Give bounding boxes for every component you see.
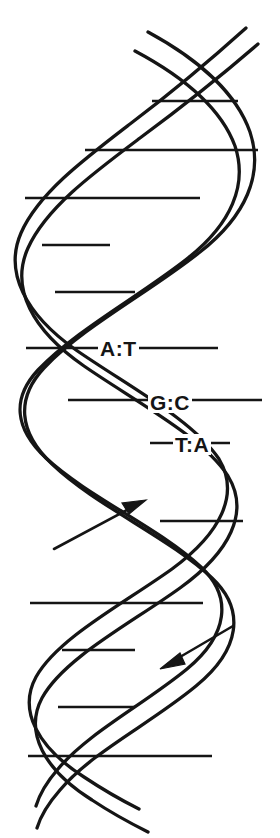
dna-helix-drawing	[0, 0, 280, 838]
base-pair-label-at: A:T	[98, 338, 139, 359]
base-pair-label-ta: T:A	[173, 434, 211, 455]
base-pair-label-gc: G:C	[148, 392, 192, 413]
figure-background	[0, 0, 280, 838]
dna-helix-figure: A:T G:C T:A	[0, 0, 280, 838]
